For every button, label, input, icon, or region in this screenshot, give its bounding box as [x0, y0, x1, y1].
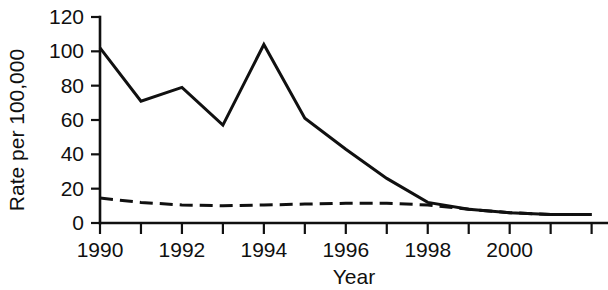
y-axis-title: Rate per 100,000: [5, 49, 28, 211]
chart-canvas: 020406080100120 199019921994199619982000…: [0, 0, 608, 290]
y-tick-label-100: 100: [49, 39, 84, 62]
x-tick-label-1990: 1990: [77, 238, 124, 261]
x-tick-label-1992: 1992: [159, 238, 206, 261]
x-axis-ticks: [100, 223, 592, 234]
y-tick-label-120: 120: [49, 5, 84, 28]
y-tick-label-60: 60: [61, 108, 84, 131]
y-tick-label-0: 0: [72, 211, 84, 234]
series-solid-line: [100, 44, 592, 214]
line-chart: 020406080100120 199019921994199619982000…: [0, 0, 608, 290]
x-axis-tick-labels: 199019921994199619982000: [77, 238, 533, 261]
x-tick-label-1996: 1996: [322, 238, 369, 261]
x-tick-label-2000: 2000: [486, 238, 533, 261]
y-axis-ticks: [91, 17, 100, 223]
x-tick-label-1994: 1994: [241, 238, 288, 261]
y-tick-label-20: 20: [61, 177, 84, 200]
x-tick-label-1998: 1998: [404, 238, 451, 261]
y-tick-label-40: 40: [61, 142, 84, 165]
x-axis-title: Year: [333, 265, 375, 288]
y-axis-tick-labels: 020406080100120: [49, 5, 84, 234]
y-tick-label-80: 80: [61, 74, 84, 97]
